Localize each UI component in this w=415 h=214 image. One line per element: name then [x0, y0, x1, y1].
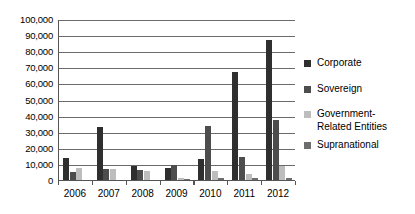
bar-2006-series-0 [63, 158, 69, 180]
bar-2008-series-0 [131, 166, 137, 180]
y-tick-label: 10,000 [25, 160, 53, 170]
bar-group-2007 [97, 20, 123, 180]
bar-2011-series-2 [246, 174, 252, 180]
bar-2010-series-1 [205, 126, 211, 180]
x-tick-label-2012: 2012 [267, 188, 289, 200]
bar-2010-series-0 [198, 159, 204, 180]
y-tick-label: 90,000 [25, 31, 53, 41]
legend-item-1[interactable]: Sovereign [304, 83, 415, 96]
legend-item-0[interactable]: Corporate [304, 57, 415, 70]
bar-2007-series-1 [103, 169, 109, 180]
bar-2012-series-3 [286, 178, 292, 180]
y-axis: 100,00090,00080,00070,00060,00050,00040,… [0, 0, 57, 214]
bar-group-2006 [63, 20, 89, 180]
y-tick-label: 40,000 [25, 112, 53, 122]
bar-group-2009 [165, 20, 191, 180]
bar-chart: 100,00090,00080,00070,00060,00050,00040,… [0, 0, 415, 214]
bar-2009-series-2 [178, 178, 184, 180]
legend-label: Corporate [317, 57, 361, 70]
bar-group-2010 [198, 20, 224, 180]
legend-swatch-icon [304, 111, 311, 118]
bar-2009-series-0 [165, 168, 171, 180]
legend-item-3[interactable]: Supranational [304, 139, 415, 152]
bar-group-2011 [232, 20, 258, 180]
bar-2011-series-0 [232, 72, 238, 180]
plot-area [58, 20, 295, 181]
bar-group-2012 [266, 20, 292, 180]
legend: CorporateSovereignGovernment- Related En… [304, 57, 415, 165]
y-tick-label: 70,000 [25, 63, 53, 73]
x-tick-label-2011: 2011 [233, 188, 255, 200]
bar-2008-series-2 [144, 171, 150, 180]
x-tick-label-2009: 2009 [165, 188, 187, 200]
bar-group-2008 [131, 20, 157, 180]
bar-2007-series-2 [110, 169, 116, 180]
y-tick-label: 0 [48, 176, 53, 186]
x-tick-label-2008: 2008 [132, 188, 154, 200]
legend-item-2[interactable]: Government- Related Entities [304, 108, 415, 133]
bar-2009-series-1 [171, 165, 177, 180]
bar-2006-series-1 [70, 172, 76, 180]
bar-2012-series-2 [279, 166, 285, 180]
legend-swatch-icon [304, 86, 311, 93]
bar-2011-series-1 [239, 157, 245, 180]
y-tick-label: 50,000 [25, 96, 53, 106]
x-tick-label-2006: 2006 [64, 188, 86, 200]
x-tick-label-2010: 2010 [199, 188, 221, 200]
legend-swatch-icon [304, 60, 311, 67]
x-tick [160, 181, 161, 185]
x-axis: 2006200720082009201020112012 [58, 188, 295, 204]
legend-label: Sovereign [317, 83, 362, 96]
bar-2008-series-1 [137, 170, 143, 180]
bar-2010-series-2 [212, 171, 218, 180]
y-tick-label: 60,000 [25, 79, 53, 89]
y-tick-label: 100,000 [20, 15, 53, 25]
bar-2010-series-3 [218, 178, 224, 180]
y-tick-label: 30,000 [25, 128, 53, 138]
x-tick-label-2007: 2007 [98, 188, 120, 200]
y-tick-label: 80,000 [25, 47, 53, 57]
x-tick [227, 181, 228, 185]
bar-2011-series-3 [252, 178, 258, 180]
bar-2007-series-0 [97, 127, 103, 180]
y-tick-label: 20,000 [25, 144, 53, 154]
bars-layer [59, 20, 295, 180]
bar-2006-series-2 [76, 168, 82, 180]
x-tick [58, 181, 59, 185]
x-tick [193, 181, 194, 185]
bar-2012-series-0 [266, 40, 272, 180]
legend-label: Supranational [317, 139, 379, 152]
bar-2009-series-3 [184, 179, 190, 180]
x-axis-ticks [58, 181, 295, 186]
x-tick [92, 181, 93, 185]
x-tick [261, 181, 262, 185]
x-tick [126, 181, 127, 185]
legend-label: Government- Related Entities [317, 108, 387, 133]
legend-swatch-icon [304, 142, 311, 149]
bar-2012-series-1 [273, 120, 279, 180]
x-tick [295, 181, 296, 185]
